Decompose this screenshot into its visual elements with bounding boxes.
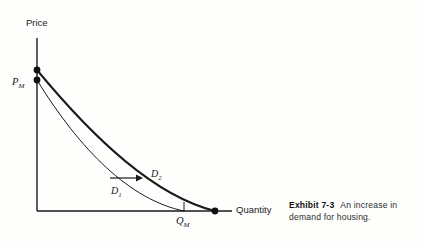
curve-d2-subscript: 2 (158, 174, 161, 181)
curve-d1-subscript: 1 (118, 191, 121, 198)
caption-text: Exhibit 7-3An increase in demand for hou… (289, 200, 417, 223)
quantity-symbol: Q (176, 215, 184, 226)
figure-container: Price Quantity PM QM D1 D2 Exhibit 7-3An… (0, 0, 424, 245)
curve-label-d2: D2 (151, 169, 162, 182)
curve-label-d1: D1 (111, 186, 122, 199)
x-axis-label: Quantity (236, 205, 271, 215)
figure-caption: Exhibit 7-3An increase in demand for hou… (289, 200, 417, 223)
quantity-axis-value-label: QM (176, 216, 190, 229)
price-subscript: M (18, 82, 24, 90)
caption-exhibit-label: Exhibit 7-3 (289, 200, 334, 210)
price-axis-value-label: PM (12, 77, 24, 90)
quantity-subscript: M (184, 221, 190, 229)
y-axis-label: Price (26, 18, 48, 28)
dot-d1-price-intercept (34, 77, 41, 84)
dot-d2-quantity-intercept (212, 208, 219, 215)
dot-d2-price-intercept (34, 67, 41, 74)
demand-curve-graph: Price Quantity PM QM D1 D2 (0, 0, 288, 245)
demand-curve-d2 (37, 70, 215, 211)
